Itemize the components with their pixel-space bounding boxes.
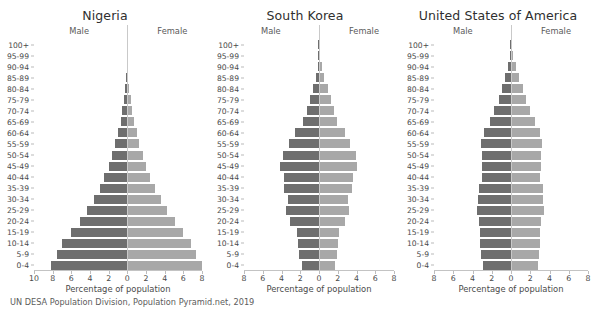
bar-female — [511, 139, 542, 148]
female-label-usa: Female — [541, 26, 571, 36]
bar-male — [284, 173, 319, 182]
bar-male — [502, 84, 511, 93]
x-axis-nigeria: Percentage of population 10864202468 — [0, 271, 210, 297]
plot-area-nigeria: 100+95-9990-9485-8980-8475-7970-7465-696… — [0, 39, 210, 271]
bar-male — [121, 117, 128, 126]
bar-male — [283, 151, 319, 160]
bar-male — [302, 261, 319, 270]
bar-male — [286, 206, 319, 215]
x-axis-title-nigeria: Percentage of population — [34, 284, 202, 294]
bar-male — [112, 151, 127, 160]
bar-male — [481, 139, 511, 148]
bar-male — [118, 128, 127, 137]
bar-male — [290, 217, 319, 226]
panels-row: Nigeria Male Female 100+95-9990-9485-898… — [0, 0, 596, 292]
bar-male — [80, 217, 128, 226]
bar-female — [127, 206, 167, 215]
x-tick-label: 2 — [489, 274, 494, 283]
bar-male — [280, 162, 319, 171]
bar-male — [62, 239, 127, 248]
bar-male — [71, 228, 127, 237]
x-axis-title-usa: Percentage of population — [434, 284, 588, 294]
x-axis-usa: Percentage of population 864202468 — [400, 271, 596, 297]
bar-male — [499, 95, 511, 104]
bar-female — [319, 173, 353, 182]
bar-male — [100, 184, 128, 193]
bars-usa — [400, 39, 588, 271]
bar-male — [104, 173, 127, 182]
x-tick-label: 6 — [451, 274, 456, 283]
bar-female — [319, 195, 348, 204]
bar-female — [319, 250, 337, 259]
bar-male — [310, 95, 319, 104]
plot-area-usa: 100+95-9990-9485-8980-8475-7970-7465-696… — [400, 39, 596, 271]
bars-nigeria — [0, 39, 202, 271]
bar-male — [298, 239, 319, 248]
bars-south-korea — [210, 39, 394, 271]
bar-female — [319, 228, 339, 237]
x-tick-label: 2 — [335, 274, 340, 283]
bar-female — [319, 128, 345, 137]
bar-female — [127, 184, 155, 193]
x-tick-label: 2 — [144, 274, 149, 283]
bar-male — [94, 195, 128, 204]
x-tick-label: 8 — [586, 274, 591, 283]
bar-female — [127, 261, 202, 270]
panel-usa: United States of America Male Female 100… — [400, 0, 596, 292]
bar-female — [319, 139, 350, 148]
bar-male — [480, 228, 511, 237]
x-tick-label: 0 — [125, 274, 130, 283]
bar-female — [319, 151, 356, 160]
x-tick-label: 4 — [279, 274, 284, 283]
bar-female — [511, 173, 540, 182]
center-line-south-korea — [319, 25, 320, 271]
bar-female — [127, 128, 136, 137]
bar-female — [127, 173, 150, 182]
sex-legend-usa: Male Female — [400, 25, 596, 39]
male-label-nigeria: Male — [69, 26, 89, 36]
x-tick-label: 6 — [181, 274, 186, 283]
x-tick-label: 4 — [162, 274, 167, 283]
bar-female — [511, 151, 541, 160]
bar-female — [511, 73, 519, 82]
x-tick-label: 0 — [509, 274, 514, 283]
bar-female — [319, 95, 331, 104]
x-tick-label: 6 — [566, 274, 571, 283]
x-tick-label: 2 — [106, 274, 111, 283]
bar-male — [482, 151, 511, 160]
bar-female — [511, 162, 541, 171]
bar-female — [511, 261, 538, 270]
bar-female — [319, 184, 352, 193]
panel-nigeria: Nigeria Male Female 100+95-9990-9485-898… — [0, 0, 210, 292]
bar-female — [127, 139, 139, 148]
center-line-usa — [511, 25, 512, 271]
bar-female — [319, 84, 328, 93]
x-tick-label: 4 — [354, 274, 359, 283]
bar-female — [511, 95, 526, 104]
bar-female — [127, 250, 196, 259]
bar-male — [288, 195, 319, 204]
x-tick-label: 8 — [242, 274, 247, 283]
bar-male — [57, 250, 127, 259]
population-pyramid-figure: Nigeria Male Female 100+95-9990-9485-898… — [0, 0, 596, 316]
bar-female — [511, 217, 541, 226]
bar-female — [127, 151, 142, 160]
bar-male — [482, 162, 511, 171]
bar-female — [127, 228, 183, 237]
x-axis-title-south-korea: Percentage of population — [244, 284, 394, 294]
source-footnote: UN DESA Population Division, Population … — [10, 297, 254, 307]
bar-female — [511, 206, 544, 215]
bar-male — [284, 184, 319, 193]
bar-female — [511, 84, 523, 93]
male-label-south-korea: Male — [261, 26, 281, 36]
bar-female — [319, 239, 338, 248]
x-tick-label: 2 — [528, 274, 533, 283]
x-tick-label: 6 — [373, 274, 378, 283]
bar-female — [511, 228, 540, 237]
x-tick-label: 6 — [260, 274, 265, 283]
bar-male — [484, 128, 511, 137]
bar-male — [115, 139, 127, 148]
bar-female — [511, 239, 540, 248]
x-tick-label: 10 — [29, 274, 39, 283]
bar-female — [511, 195, 543, 204]
